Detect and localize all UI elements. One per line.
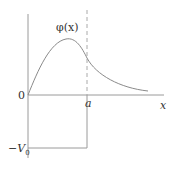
x-axis-label: x (160, 100, 166, 111)
well-edge-label: a (85, 98, 92, 109)
well-depth-text: −V (8, 142, 25, 155)
wavefunction-curve (28, 39, 148, 95)
potential-well-diagram: φ(x) 0 a x −V0 (0, 0, 177, 173)
origin-label: 0 (18, 90, 25, 101)
well-depth-subscript: 0 (25, 149, 29, 157)
well-depth-label: −V0 (8, 143, 30, 157)
function-label: φ(x) (56, 22, 79, 33)
